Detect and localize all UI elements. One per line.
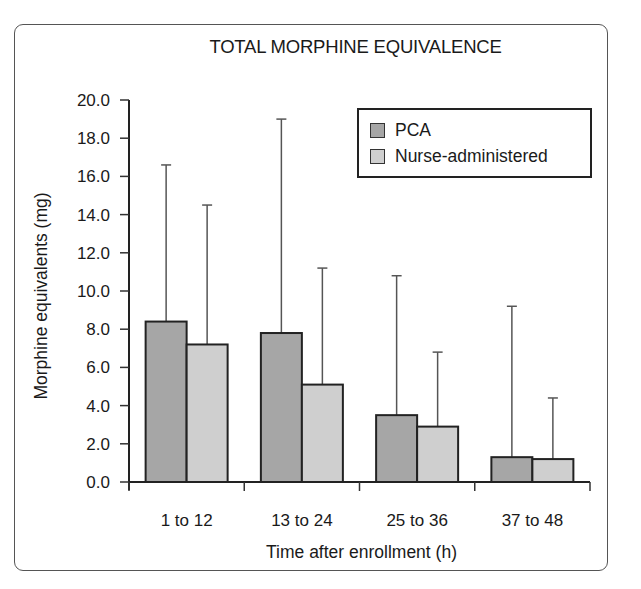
y-tick-label: 6.0 [86, 358, 110, 377]
plot-area: 0.02.04.06.08.010.012.014.016.018.020.01… [0, 0, 641, 589]
x-tick-label: 37 to 48 [502, 511, 563, 530]
bar-nurse [187, 344, 228, 482]
x-tick-label: 13 to 24 [271, 511, 332, 530]
y-tick-label: 14.0 [77, 206, 110, 225]
y-tick-label: 0.0 [86, 473, 110, 492]
legend-item-pca: PCA [370, 119, 431, 141]
x-tick-label: 25 to 36 [386, 511, 447, 530]
y-tick-label: 12.0 [77, 244, 110, 263]
legend-swatch-pca [370, 123, 385, 138]
y-axis-label: Morphine equivalents (mg) [31, 192, 51, 399]
bar-nurse [417, 427, 458, 482]
y-tick-label: 2.0 [86, 435, 110, 454]
legend-label-nurse: Nurse-administered [395, 146, 548, 167]
legend: PCA Nurse-administered [357, 108, 592, 178]
x-axis-label: Time after enrollment (h) [266, 542, 457, 562]
bar-nurse [532, 459, 573, 482]
bar-pca [261, 333, 302, 482]
bar-pca [491, 457, 532, 482]
y-tick-label: 8.0 [86, 320, 110, 339]
y-tick-label: 18.0 [77, 129, 110, 148]
x-tick-label: 1 to 12 [161, 511, 213, 530]
y-tick-label: 16.0 [77, 167, 110, 186]
bar-pca [146, 322, 187, 482]
bar-nurse [302, 385, 343, 482]
y-tick-label: 4.0 [86, 397, 110, 416]
bar-pca [376, 415, 417, 482]
y-tick-label: 20.0 [77, 91, 110, 110]
legend-label-pca: PCA [395, 120, 431, 141]
y-tick-label: 10.0 [77, 282, 110, 301]
legend-swatch-nurse [370, 149, 385, 164]
legend-item-nurse: Nurse-administered [370, 145, 548, 167]
